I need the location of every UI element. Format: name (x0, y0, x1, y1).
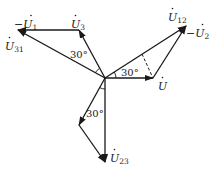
svg-text:U3: U3 (71, 18, 85, 32)
vector-neg-u2 (153, 26, 186, 78)
label-neg-u1: −U1 (14, 15, 37, 32)
vector-u12 (105, 26, 186, 78)
angle-arc-upper-left (95, 69, 99, 73)
phasor-diagram: 30° 30° 30° −U1 U3 U31 U12 −U2 U U23 (0, 0, 219, 174)
angle-label-upper: 30° (70, 49, 88, 60)
vector-lower-second (79, 125, 105, 162)
angle-arc-lower (100, 88, 105, 89)
label-u: U (158, 77, 168, 93)
svg-text:U23: U23 (110, 152, 129, 166)
label-u12: U12 (168, 8, 187, 25)
svg-text:U: U (158, 80, 168, 93)
label-u23: U23 (110, 149, 129, 166)
label-u3: U3 (71, 15, 85, 32)
svg-text:U31: U31 (5, 40, 24, 54)
dashed-perpendicular (142, 54, 153, 78)
angle-label-right: 30° (121, 67, 139, 78)
svg-text:−U1: −U1 (14, 18, 37, 32)
angle-arc-right (114, 72, 116, 78)
label-u31: U31 (5, 37, 24, 54)
svg-text:−U2: −U2 (186, 27, 210, 41)
svg-text:U12: U12 (168, 11, 187, 25)
label-neg-u2: −U2 (186, 24, 210, 41)
angle-label-lower: 30° (86, 108, 104, 119)
